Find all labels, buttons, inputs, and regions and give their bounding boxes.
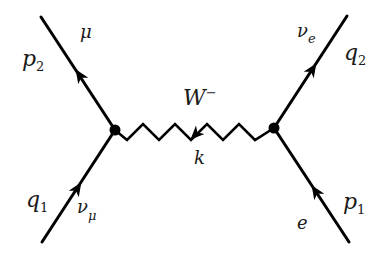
right-vertex [269, 123, 280, 134]
label-muon-neutrino: νμ [77, 196, 96, 223]
label-p2: p2 [22, 46, 44, 74]
electron-arrow-icon [307, 182, 325, 200]
label-p1: p1 [343, 189, 365, 217]
label-w-boson: W− [183, 85, 217, 110]
label-q2: q2 [344, 40, 366, 68]
label-electron-neutrino: νe [297, 20, 316, 46]
feynman-diagram: p2 μ q1 νμ νe q2 e p1 W− k [0, 0, 388, 256]
label-electron: e [297, 212, 308, 233]
label-q1: q1 [26, 187, 48, 215]
electron-neutrino-arrow-icon [304, 60, 322, 78]
electron-line [274, 128, 349, 242]
label-momentum-k: k [194, 147, 205, 168]
left-vertex [110, 125, 121, 136]
label-muon: μ [80, 21, 92, 42]
